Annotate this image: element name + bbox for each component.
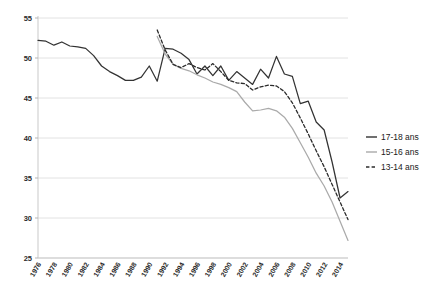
y-tick-label: 50 bbox=[24, 54, 32, 63]
legend-label-15-16-ans: 15-16 ans bbox=[381, 147, 419, 157]
y-tick-label: 40 bbox=[24, 134, 32, 143]
legend-label-13-14-ans: 13-14 ans bbox=[381, 162, 419, 172]
legend-label-17-18-ans: 17-18 ans bbox=[381, 132, 419, 142]
chart-canvas: 25303540455055 1976197819801982198419861… bbox=[0, 0, 448, 305]
y-tick-label: 30 bbox=[24, 214, 32, 223]
line-chart: 25303540455055 1976197819801982198419861… bbox=[0, 0, 448, 305]
y-tick-label: 55 bbox=[24, 14, 32, 23]
y-tick-label: 45 bbox=[24, 94, 32, 103]
y-tick-label: 35 bbox=[24, 174, 32, 183]
y-tick-label: 25 bbox=[24, 254, 32, 263]
